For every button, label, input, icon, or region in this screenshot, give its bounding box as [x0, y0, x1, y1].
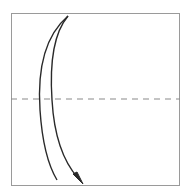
- fold-diagram: [0, 0, 188, 195]
- fold-diagram-svg: [0, 0, 188, 195]
